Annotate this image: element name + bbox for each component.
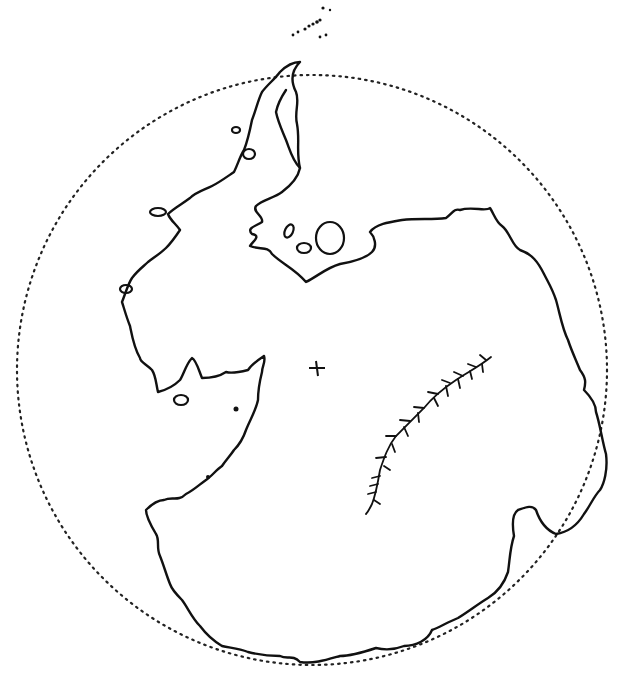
island [174,395,188,405]
island [316,222,344,254]
island [234,407,239,412]
island [232,127,240,133]
island [150,208,166,216]
island [243,149,255,159]
south-pole-marker-icon [309,361,325,376]
island [282,223,295,239]
mountain-range [366,355,491,514]
antarctica-map [0,0,625,677]
island-chain [292,6,332,38]
island [297,243,311,253]
coastline [122,62,607,663]
latitude-circle [17,75,607,665]
island [206,475,210,479]
